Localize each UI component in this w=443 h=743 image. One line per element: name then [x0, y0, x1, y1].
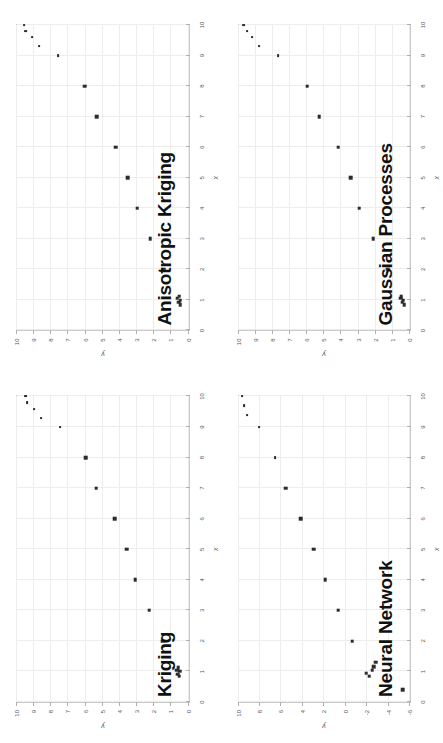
gridline-horizontal [85, 397, 86, 703]
gridline-vertical [17, 426, 189, 427]
y-axis-tick-label: 8 [48, 339, 54, 342]
data-point [400, 295, 403, 298]
data-point [125, 548, 128, 551]
gridline-vertical [17, 487, 189, 488]
data-point [358, 207, 361, 210]
y-axis-tick-label: 5 [100, 710, 106, 713]
gridline-horizontal [238, 25, 239, 331]
gridline-horizontal [50, 397, 51, 703]
y-axis-tick [16, 331, 17, 335]
data-point [40, 417, 42, 419]
y-axis-tick [238, 331, 239, 335]
x-axis-tick-label: 1 [420, 298, 426, 301]
x-axis-tick [407, 579, 411, 580]
data-point [177, 666, 180, 669]
x-axis-tick [186, 55, 190, 56]
gridline-horizontal [255, 25, 256, 331]
y-axis-label: y [323, 351, 327, 358]
panel-neural-network: 012345678910-6-4-20246810xy Neural Netwo… [222, 372, 443, 743]
x-axis-tick [407, 207, 411, 208]
x-axis-tick [407, 55, 411, 56]
x-axis-tick [186, 670, 190, 671]
gridline-vertical [17, 701, 189, 702]
y-axis-tick-label: 2 [373, 339, 379, 342]
y-axis-tick-label: 1 [390, 339, 396, 342]
y-axis-tick [238, 702, 239, 706]
x-axis-tick-label: 10 [420, 393, 426, 400]
panel-title-neural-network: Neural Network [375, 560, 397, 697]
data-point [147, 609, 150, 612]
gridline-horizontal [259, 397, 260, 703]
y-axis-tick-label: 8 [257, 710, 263, 713]
y-axis-tick-label: 6 [83, 710, 89, 713]
x-axis-tick [407, 518, 411, 519]
x-axis-tick [407, 299, 411, 300]
y-axis-tick [289, 331, 290, 335]
y-axis-tick [345, 702, 346, 706]
x-axis-tick-label: 5 [199, 548, 205, 551]
y-axis-tick [280, 702, 281, 706]
data-point [305, 84, 308, 87]
data-point [299, 517, 302, 520]
x-axis-tick-label: 5 [420, 176, 426, 179]
y-axis-tick [136, 331, 137, 335]
data-point [83, 84, 86, 87]
data-point [336, 146, 339, 149]
x-axis-tick-label: 4 [420, 578, 426, 581]
y-axis-tick [85, 702, 86, 706]
y-axis-tick [188, 331, 189, 335]
y-axis-tick-label: -4 [386, 710, 392, 715]
gridline-horizontal [102, 397, 103, 703]
gridline-horizontal [345, 397, 346, 703]
x-axis-tick-label: 4 [199, 207, 205, 210]
data-point [94, 486, 97, 489]
y-axis-tick-label: 5 [321, 339, 327, 342]
x-axis-tick-label: 7 [199, 486, 205, 489]
gridline-vertical [239, 396, 411, 397]
y-axis-tick [102, 702, 103, 706]
y-axis-tick-label: 3 [134, 339, 140, 342]
gridline-vertical [17, 396, 189, 397]
x-axis-tick-label: 2 [199, 639, 205, 642]
x-axis-tick-label: 3 [420, 237, 426, 240]
gridline-horizontal [280, 397, 281, 703]
gridline-horizontal [50, 25, 51, 331]
gridline-vertical [239, 116, 411, 117]
y-axis-tick-label: 7 [65, 339, 71, 342]
x-axis-tick-label: 2 [420, 639, 426, 642]
scatter-plot-figure: 012345678910012345678910xy Kriging 01234… [0, 0, 443, 743]
x-axis-label: x [433, 548, 440, 552]
gridline-horizontal [33, 397, 34, 703]
data-point [135, 207, 138, 210]
y-axis-tick [170, 702, 171, 706]
y-axis-tick-label: -2 [364, 710, 370, 715]
gridline-vertical [17, 85, 189, 86]
y-axis-tick-label: 7 [65, 710, 71, 713]
gridline-horizontal [102, 25, 103, 331]
panel-gaussian-processes: 012345678910012345678910xy Gaussian Proc… [222, 0, 443, 372]
gridline-horizontal [409, 25, 410, 331]
gridline-horizontal [85, 25, 86, 331]
panel-title-gaussian-processes: Gaussian Processes [375, 143, 397, 325]
gridline-horizontal [67, 397, 68, 703]
x-axis-tick-label: 8 [420, 456, 426, 459]
y-axis-tick [340, 331, 341, 335]
x-axis-tick-label: 9 [420, 425, 426, 428]
data-point [148, 237, 151, 240]
data-point [246, 414, 248, 416]
data-point [24, 30, 26, 32]
y-axis-tick-label: 2 [151, 339, 157, 342]
data-point [258, 426, 260, 428]
gridline-horizontal [16, 397, 17, 703]
y-axis-tick [388, 702, 389, 706]
gridline-vertical [17, 518, 189, 519]
x-axis-tick [186, 396, 190, 397]
data-point [241, 395, 243, 397]
gridline-vertical [17, 55, 189, 56]
gridline-vertical [239, 426, 411, 427]
y-axis-tick-label: 8 [270, 339, 276, 342]
x-axis-tick-label: 7 [420, 486, 426, 489]
y-axis-tick [119, 702, 120, 706]
data-point [364, 671, 367, 674]
x-axis-tick [407, 457, 411, 458]
